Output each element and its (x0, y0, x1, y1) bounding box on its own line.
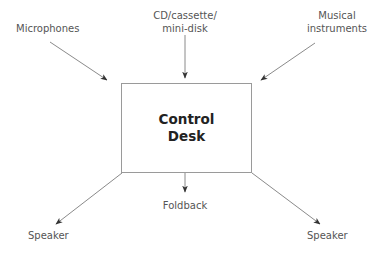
arrow-speaker-left (56, 173, 122, 224)
title-line-1: Control (159, 111, 215, 128)
label-line: Speaker (28, 229, 69, 242)
label-microphones: Microphones (16, 22, 79, 35)
label-line: CD/cassette/ (148, 9, 222, 22)
arrow-speaker-right (252, 173, 320, 224)
label-cd: CD/cassette/ mini-disk (148, 9, 222, 35)
label-foldback: Foldback (160, 199, 210, 212)
title-line-2: Desk (159, 128, 215, 145)
label-speaker-right: Speaker (307, 229, 348, 242)
label-instruments: Musical instruments (306, 9, 368, 35)
control-desk-title: Control Desk (159, 111, 215, 145)
label-speaker-left: Speaker (28, 229, 69, 242)
arrow-instruments (261, 43, 315, 80)
label-line: instruments (306, 22, 368, 35)
label-line: Foldback (160, 199, 210, 212)
arrow-microphones (50, 42, 107, 80)
label-line: Microphones (16, 22, 79, 35)
label-line: Musical (306, 9, 368, 22)
label-line: mini-disk (148, 22, 222, 35)
control-desk-box: Control Desk (121, 83, 252, 173)
label-line: Speaker (307, 229, 348, 242)
